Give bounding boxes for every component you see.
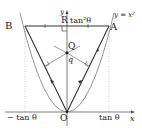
label-O: O (60, 114, 67, 123)
right-angle-AO (85, 61, 88, 67)
parabola-triangle-diagram: B A R tan²θ y y = x² Q q O − tan θ tan θ… (0, 0, 142, 132)
y-axis-arrow-icon (66, 10, 69, 14)
label-A: A (110, 22, 117, 32)
label-tan-squared: tan²θ (70, 17, 91, 25)
right-angle-R (62, 26, 67, 31)
label-y-axis: y (60, 9, 64, 16)
label-x-axis: x (130, 115, 135, 123)
label-curve: y = x² (114, 12, 135, 19)
right-angle-BO (46, 61, 49, 67)
tick-label-neg-tan: − tan θ (7, 114, 37, 122)
segment-AO (67, 26, 109, 112)
perp-to-BO (45, 53, 67, 66)
point-Q (66, 52, 69, 55)
ext-line-left (54, 46, 67, 53)
label-B: B (5, 21, 12, 31)
label-R: R (61, 16, 68, 25)
segment-BO (25, 26, 67, 112)
tick-label-tan: tan θ (99, 114, 120, 122)
label-q: q (68, 56, 73, 64)
label-Q: Q (68, 42, 75, 51)
